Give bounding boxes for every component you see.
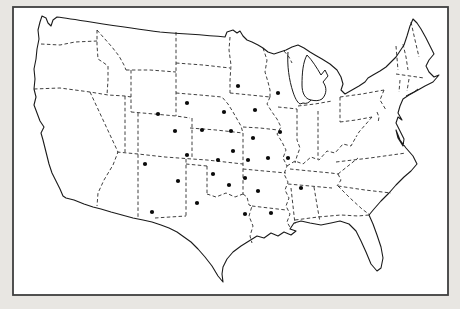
data-point-dot bbox=[229, 129, 233, 133]
data-point-dot bbox=[231, 149, 235, 153]
data-point-dot bbox=[236, 84, 240, 88]
map-frame bbox=[13, 7, 448, 295]
data-point-dot bbox=[269, 211, 273, 215]
data-point-dot bbox=[200, 128, 204, 132]
data-point-dot bbox=[251, 136, 255, 140]
data-point-dot bbox=[253, 108, 257, 112]
data-point-dot bbox=[243, 212, 247, 216]
data-point-dot bbox=[276, 91, 280, 95]
data-point-dot bbox=[278, 130, 282, 134]
data-point-dot bbox=[185, 101, 189, 105]
data-point-dot bbox=[143, 162, 147, 166]
data-point-dot bbox=[216, 158, 220, 162]
data-point-dot bbox=[176, 179, 180, 183]
us-dot-map-figure bbox=[0, 0, 460, 309]
data-point-dot bbox=[266, 156, 270, 160]
data-point-dot bbox=[185, 153, 189, 157]
data-point-dot bbox=[299, 186, 303, 190]
data-point-dot bbox=[246, 158, 250, 162]
data-point-dot bbox=[227, 183, 231, 187]
data-point-dot bbox=[173, 129, 177, 133]
data-point-dot bbox=[150, 210, 154, 214]
data-point-dot bbox=[156, 112, 160, 116]
data-point-dot bbox=[195, 201, 199, 205]
data-point-dot bbox=[222, 110, 226, 114]
data-point-dot bbox=[211, 172, 215, 176]
data-point-dot bbox=[256, 189, 260, 193]
data-point-dot bbox=[286, 156, 290, 160]
us-map bbox=[0, 0, 460, 309]
data-point-dot bbox=[243, 176, 247, 180]
